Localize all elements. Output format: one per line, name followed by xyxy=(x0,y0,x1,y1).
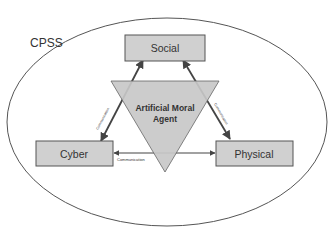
node-cyber: Cyber xyxy=(36,141,113,166)
svg-text:Physical: Physical xyxy=(234,148,273,160)
cpss-diagram: CPSS Artificial Moral Agent Social Cyber… xyxy=(0,0,335,234)
node-social: Social xyxy=(125,35,205,61)
svg-text:Cyber: Cyber xyxy=(60,148,89,160)
cpss-label: CPSS xyxy=(30,36,63,50)
center-label-line1: Artificial Moral xyxy=(135,103,194,113)
edge-label-cyber-physical: Communication xyxy=(117,157,145,162)
center-label-line2: Agent xyxy=(153,114,177,124)
svg-text:Social: Social xyxy=(151,42,180,54)
node-physical: Physical xyxy=(216,141,293,166)
